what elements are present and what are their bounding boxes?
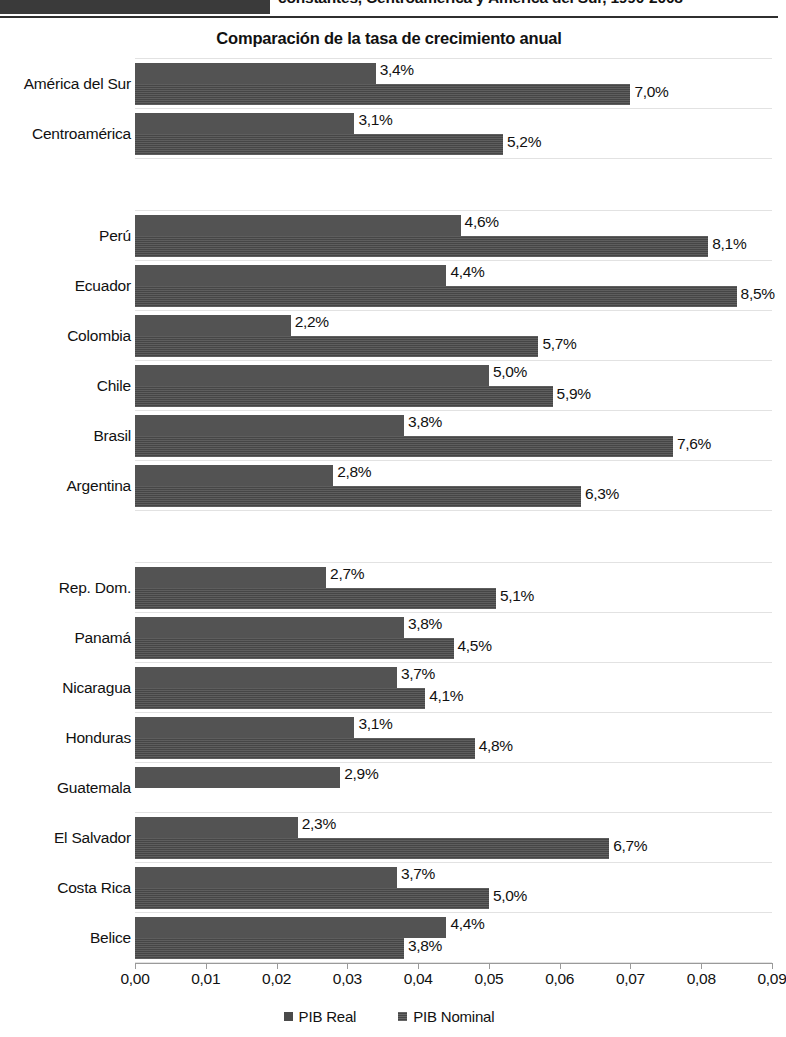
legend-item-nominal[interactable]: PIB Nominal <box>398 1008 494 1025</box>
chart-row: Perú4,6%8,1% <box>0 210 778 260</box>
category-label: Centroamérica <box>0 125 131 143</box>
legend-swatch-icon <box>398 1012 407 1021</box>
category-label: Colombia <box>0 327 131 345</box>
chart-row: El Salvador2,3%6,7% <box>0 812 778 862</box>
gridline <box>135 58 772 59</box>
axis-tick <box>347 963 348 969</box>
bar-pib-real <box>135 767 340 788</box>
chart-row: Brasil3,8%7,6% <box>0 410 778 460</box>
axis-tick-label: 0,01 <box>191 970 220 988</box>
bar-pib-real <box>135 717 354 738</box>
gridline <box>135 410 772 411</box>
category-label: Belice <box>0 929 131 947</box>
axis-tick-label: 0,03 <box>333 970 362 988</box>
bar-value-pib-nominal: 6,7% <box>613 837 647 855</box>
bar-value-pib-nominal: 5,7% <box>542 335 576 353</box>
bar-value-pib-nominal: 8,1% <box>712 235 746 253</box>
bar-value-pib-real: 4,4% <box>450 915 484 933</box>
header-divider <box>0 16 778 18</box>
bar-value-pib-real: 3,8% <box>408 615 442 633</box>
bar-value-pib-real: 4,4% <box>450 263 484 281</box>
bar-pib-real <box>135 465 333 486</box>
chart-row: Rep. Dom.2,7%5,1% <box>0 562 778 612</box>
page-header-title: constantes, Centroamérica y América del … <box>278 0 683 7</box>
x-axis: 0,000,010,020,030,040,050,060,070,080,09 <box>0 963 778 997</box>
category-label: Guatemala <box>0 779 131 797</box>
chart-row: Argentina2,8%6,3% <box>0 460 778 510</box>
gridline <box>135 510 772 511</box>
gridline <box>135 812 772 813</box>
chart-row: Guatemala2,9% <box>0 762 778 812</box>
bar-pib-real <box>135 567 326 588</box>
bar-value-pib-real: 3,1% <box>358 111 392 129</box>
chart-subtitle: Comparación de la tasa de crecimiento an… <box>0 29 778 48</box>
axis-tick <box>277 963 278 969</box>
bar-value-pib-nominal: 7,6% <box>677 435 711 453</box>
bar-pib-real <box>135 917 446 938</box>
bar-value-pib-real: 3,8% <box>408 413 442 431</box>
category-label: Panamá <box>0 629 131 647</box>
bar-value-pib-real: 3,7% <box>401 665 435 683</box>
chart-row: Belice4,4%3,8% <box>0 912 778 962</box>
legend-label: PIB Real <box>299 1008 357 1025</box>
gridline <box>135 712 772 713</box>
chart-legend: PIB RealPIB Nominal <box>0 1008 778 1025</box>
bar-value-pib-nominal: 5,9% <box>557 385 591 403</box>
bar-pib-nominal <box>135 838 609 859</box>
bar-value-pib-real: 2,7% <box>330 565 364 583</box>
bar-pib-nominal <box>135 436 673 457</box>
category-label: Nicaragua <box>0 679 131 697</box>
legend-item-real[interactable]: PIB Real <box>284 1008 357 1025</box>
bar-pib-nominal <box>135 236 708 257</box>
gridline <box>135 108 772 109</box>
bar-pib-real <box>135 617 404 638</box>
page-header-band: constantes, Centroamérica y América del … <box>0 0 778 14</box>
gridline <box>135 158 772 159</box>
axis-tick-label: 0,08 <box>687 970 716 988</box>
gridline <box>135 310 772 311</box>
chart-row: Ecuador4,4%8,5% <box>0 260 778 310</box>
bar-value-pib-real: 2,9% <box>344 765 378 783</box>
bar-value-pib-real: 5,0% <box>493 363 527 381</box>
bar-value-pib-nominal: 5,2% <box>507 133 541 151</box>
category-label: Rep. Dom. <box>0 579 131 597</box>
category-label: Honduras <box>0 729 131 747</box>
chart-row: Costa Rica3,7%5,0% <box>0 862 778 912</box>
gridline <box>135 862 772 863</box>
bar-value-pib-nominal: 4,5% <box>458 637 492 655</box>
bar-pib-real <box>135 817 298 838</box>
axis-tick <box>630 963 631 969</box>
bar-value-pib-nominal: 4,8% <box>479 737 513 755</box>
gridline <box>135 762 772 763</box>
axis-tick-label: 0,06 <box>545 970 574 988</box>
gridline <box>135 612 772 613</box>
bar-pib-real <box>135 215 461 236</box>
axis-tick-label: 0,00 <box>121 970 150 988</box>
axis-tick <box>701 963 702 969</box>
group-spacer <box>0 510 778 562</box>
bar-value-pib-nominal: 4,1% <box>429 687 463 705</box>
chart-row: Chile5,0%5,9% <box>0 360 778 410</box>
chart-row: América del Sur3,4%7,0% <box>0 58 778 108</box>
axis-tick-label: 0,07 <box>616 970 645 988</box>
bar-pib-real <box>135 113 354 134</box>
bar-value-pib-real: 4,6% <box>465 213 499 231</box>
group-spacer <box>0 158 778 210</box>
gridline <box>135 562 772 563</box>
bar-value-pib-real: 3,4% <box>380 61 414 79</box>
axis-tick <box>772 963 773 969</box>
axis-tick <box>418 963 419 969</box>
bar-pib-nominal <box>135 336 538 357</box>
gridline <box>135 662 772 663</box>
legend-label: PIB Nominal <box>413 1008 494 1025</box>
bar-value-pib-nominal: 7,0% <box>634 83 668 101</box>
bar-pib-nominal <box>135 888 489 909</box>
category-label: América del Sur <box>0 75 131 93</box>
bar-pib-nominal <box>135 134 503 155</box>
chart-row: Panamá3,8%4,5% <box>0 612 778 662</box>
category-label: Costa Rica <box>0 879 131 897</box>
bar-value-pib-nominal: 3,8% <box>408 937 442 955</box>
chart-row: Honduras3,1%4,8% <box>0 712 778 762</box>
bar-value-pib-nominal: 6,3% <box>585 485 619 503</box>
